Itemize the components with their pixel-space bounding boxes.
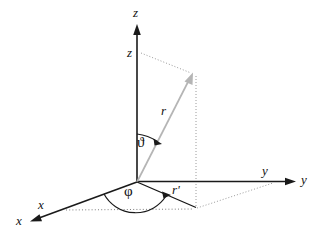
x-axis-arrowhead [30, 214, 42, 221]
r-prime-label: r' [172, 183, 180, 196]
x-parallel-dotted-line [66, 209, 194, 210]
diagram-canvas [0, 0, 320, 240]
z-height-dotted-line [141, 53, 191, 73]
z-height-label: z [127, 46, 132, 59]
r-magnitude-label: r [161, 104, 166, 117]
phi-label: φ [124, 184, 133, 199]
z-axis-label: z [133, 6, 138, 19]
z-axis-arrowhead [133, 24, 141, 35]
y-axis-outer-label: y [301, 173, 307, 186]
phi-arc [104, 194, 166, 213]
r-vector-arrowhead [185, 73, 194, 86]
x-axis [39, 182, 137, 218]
y-parallel-dotted-line [197, 183, 273, 208]
theta-label: ϑ [137, 135, 144, 150]
x-axis-outer-label: x [16, 214, 22, 227]
y-axis-arrowhead [285, 178, 296, 186]
r-vector-line [137, 80, 189, 182]
coordinate-diagram: z z y y x x r r ϑ φ r' [0, 0, 320, 240]
phi-arc-arrowhead [162, 192, 171, 199]
y-axis-inner-label: y [262, 164, 268, 177]
x-axis-inner-label: x [38, 198, 44, 211]
